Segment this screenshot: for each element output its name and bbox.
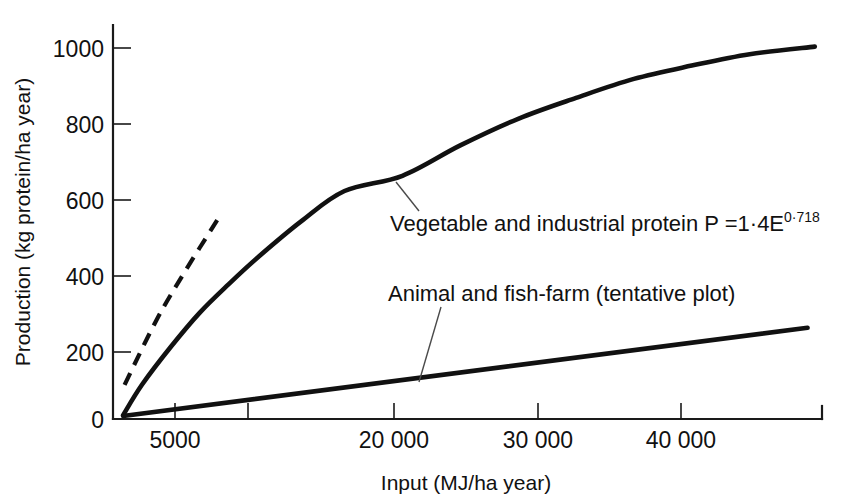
series-dashed-extrapolation — [125, 216, 220, 385]
x-axis-title: Input (MJ/ha year) — [381, 471, 551, 494]
x-axis-ticks — [175, 403, 681, 419]
y-axis-ticks — [113, 48, 131, 352]
series-animal-fish-farm — [123, 328, 807, 416]
y-tick-label-0: 0 — [91, 407, 104, 433]
y-tick-label-600: 600 — [66, 188, 104, 214]
x-axis-tick-labels: 5000 20 000 30 000 40 000 — [149, 427, 716, 453]
x-tick-label-30000: 30 000 — [503, 427, 573, 453]
y-tick-label-200: 200 — [66, 340, 104, 366]
chart-figure: 1000 800 600 400 200 0 5000 20 000 30 00… — [0, 0, 849, 504]
y-tick-label-800: 800 — [66, 112, 104, 138]
annotation-vegetable-main: Vegetable and industrial protein P =1·4E — [390, 211, 784, 236]
y-tick-label-400: 400 — [66, 264, 104, 290]
x-tick-label-20000: 20 000 — [359, 427, 429, 453]
annotation-texts: Vegetable and industrial protein P =1·4E… — [388, 209, 820, 306]
leader-line-vegetable — [396, 182, 419, 211]
leader-line-animal — [419, 307, 441, 382]
y-tick-label-1000: 1000 — [53, 36, 104, 62]
y-axis-title: Production (kg protein/ha year) — [11, 78, 34, 366]
annotation-vegetable-exponent: 0·718 — [784, 209, 820, 225]
x-tick-label-40000: 40 000 — [646, 427, 716, 453]
annotation-vegetable: Vegetable and industrial protein P =1·4E… — [390, 209, 820, 236]
y-axis-tick-labels: 1000 800 600 400 200 0 — [53, 36, 104, 433]
chart-canvas: 1000 800 600 400 200 0 5000 20 000 30 00… — [0, 0, 849, 504]
x-tick-label-5000: 5000 — [149, 427, 200, 453]
annotation-animal: Animal and fish-farm (tentative plot) — [388, 281, 735, 306]
